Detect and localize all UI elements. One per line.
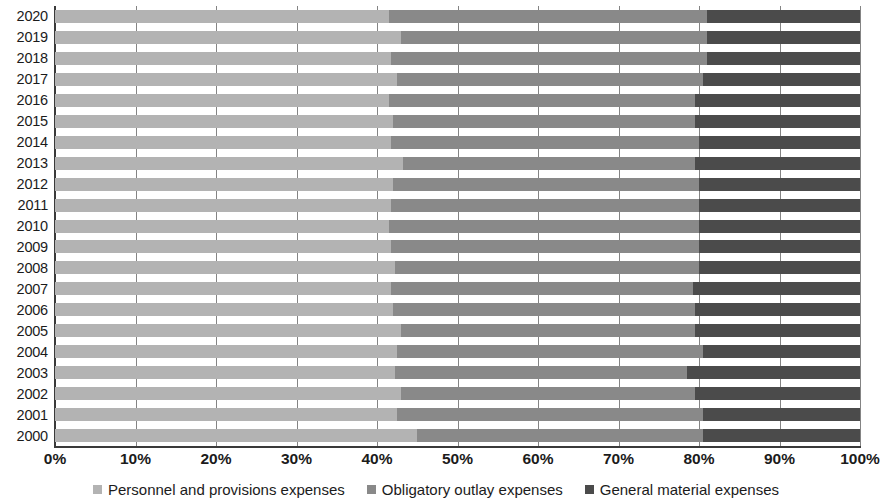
bar-segment-material-2016 bbox=[695, 94, 860, 107]
x-tick-label-60pct: 60% bbox=[522, 450, 553, 468]
bar-segment-material-2012 bbox=[699, 178, 860, 191]
y-tick-label-2012: 2012 bbox=[0, 177, 48, 191]
x-axis-line bbox=[54, 446, 861, 448]
bar-row-2015 bbox=[55, 115, 860, 128]
x-tick-label-10pct: 10% bbox=[120, 450, 151, 468]
bar-row-2020 bbox=[55, 10, 860, 23]
bar-segment-obligatory-2011 bbox=[391, 199, 699, 212]
bar-row-2000 bbox=[55, 429, 860, 442]
plot-area bbox=[55, 6, 860, 446]
legend-label-material: General material expenses bbox=[600, 481, 779, 498]
y-tick-label-2003: 2003 bbox=[0, 366, 48, 380]
y-tick-label-2005: 2005 bbox=[0, 324, 48, 338]
chart-legend: Personnel and provisions expensesObligat… bbox=[0, 477, 872, 501]
bar-row-2009 bbox=[55, 240, 860, 253]
legend-swatch-personnel-icon bbox=[93, 485, 102, 494]
bar-segment-personnel-2001 bbox=[55, 408, 397, 421]
bar-segment-material-2018 bbox=[707, 52, 860, 65]
bar-segment-material-2006 bbox=[695, 303, 860, 316]
bar-segment-obligatory-2014 bbox=[391, 136, 699, 149]
bar-row-2003 bbox=[55, 366, 860, 379]
bar-row-2011 bbox=[55, 199, 860, 212]
legend-item-obligatory[interactable]: Obligatory outlay expenses bbox=[367, 481, 563, 498]
bar-row-2018 bbox=[55, 52, 860, 65]
bar-segment-obligatory-2012 bbox=[393, 178, 699, 191]
bar-segment-material-2015 bbox=[695, 115, 860, 128]
legend-swatch-material-icon bbox=[585, 485, 594, 494]
y-tick-label-2015: 2015 bbox=[0, 114, 48, 128]
x-axis-labels: 0%10%20%30%40%50%60%70%80%90%100% bbox=[0, 450, 872, 474]
bar-row-2017 bbox=[55, 73, 860, 86]
bar-segment-material-2003 bbox=[687, 366, 860, 379]
bar-segment-personnel-2016 bbox=[55, 94, 389, 107]
y-tick-label-2000: 2000 bbox=[0, 429, 48, 443]
bar-segment-obligatory-2017 bbox=[397, 73, 703, 86]
bar-row-2002 bbox=[55, 387, 860, 400]
y-tick-label-2014: 2014 bbox=[0, 135, 48, 149]
bar-segment-obligatory-2007 bbox=[391, 282, 693, 295]
bar-segment-personnel-2009 bbox=[55, 240, 391, 253]
y-tick-label-2019: 2019 bbox=[0, 30, 48, 44]
bar-segment-material-2005 bbox=[695, 324, 860, 337]
x-tick-label-0pct: 0% bbox=[44, 450, 66, 468]
bar-segment-personnel-2006 bbox=[55, 303, 393, 316]
bar-segment-personnel-2003 bbox=[55, 366, 395, 379]
bar-segment-material-2000 bbox=[703, 429, 860, 442]
bar-segment-obligatory-2016 bbox=[389, 94, 695, 107]
bar-segment-material-2002 bbox=[695, 387, 860, 400]
bar-row-2006 bbox=[55, 303, 860, 316]
bar-segment-personnel-2002 bbox=[55, 387, 401, 400]
bar-segment-obligatory-2006 bbox=[393, 303, 695, 316]
bar-segment-material-2013 bbox=[695, 157, 860, 170]
y-tick-label-2010: 2010 bbox=[0, 219, 48, 233]
bar-segment-material-2017 bbox=[703, 73, 860, 86]
y-tick-label-2004: 2004 bbox=[0, 345, 48, 359]
bar-row-2010 bbox=[55, 220, 860, 233]
bar-segment-obligatory-2009 bbox=[391, 240, 699, 253]
bar-row-2019 bbox=[55, 31, 860, 44]
legend-item-material[interactable]: General material expenses bbox=[585, 481, 779, 498]
bar-segment-personnel-2000 bbox=[55, 429, 417, 442]
bar-segment-personnel-2019 bbox=[55, 31, 401, 44]
x-tick-label-80pct: 80% bbox=[683, 450, 714, 468]
legend-item-personnel[interactable]: Personnel and provisions expenses bbox=[93, 481, 345, 498]
bar-row-2001 bbox=[55, 408, 860, 421]
bar-segment-personnel-2005 bbox=[55, 324, 401, 337]
y-tick-label-2016: 2016 bbox=[0, 93, 48, 107]
bar-segment-personnel-2004 bbox=[55, 345, 397, 358]
bar-segment-personnel-2015 bbox=[55, 115, 393, 128]
y-tick-label-2001: 2001 bbox=[0, 408, 48, 422]
x-tick-label-40pct: 40% bbox=[361, 450, 392, 468]
bar-segment-material-2007 bbox=[693, 282, 860, 295]
bar-row-2012 bbox=[55, 178, 860, 191]
y-tick-label-2018: 2018 bbox=[0, 51, 48, 65]
bar-segment-personnel-2007 bbox=[55, 282, 391, 295]
bar-row-2007 bbox=[55, 282, 860, 295]
bar-segment-material-2009 bbox=[699, 240, 860, 253]
bar-segment-personnel-2011 bbox=[55, 199, 391, 212]
bar-segment-material-2019 bbox=[707, 31, 860, 44]
legend-label-personnel: Personnel and provisions expenses bbox=[108, 481, 345, 498]
bar-segment-material-2010 bbox=[699, 220, 860, 233]
bar-segment-personnel-2010 bbox=[55, 220, 389, 233]
legend-swatch-obligatory-icon bbox=[367, 485, 376, 494]
bar-segment-material-2001 bbox=[703, 408, 860, 421]
y-tick-label-2009: 2009 bbox=[0, 240, 48, 254]
bar-segment-obligatory-2019 bbox=[401, 31, 707, 44]
bar-segment-obligatory-2001 bbox=[397, 408, 703, 421]
bar-segment-obligatory-2004 bbox=[397, 345, 703, 358]
bar-segment-material-2008 bbox=[699, 261, 860, 274]
x-tick-label-50pct: 50% bbox=[442, 450, 473, 468]
bar-segment-material-2011 bbox=[699, 199, 860, 212]
bar-segment-personnel-2014 bbox=[55, 136, 391, 149]
y-tick-label-2020: 2020 bbox=[0, 9, 48, 23]
bar-segment-obligatory-2020 bbox=[389, 10, 707, 23]
bar-row-2008 bbox=[55, 261, 860, 274]
y-tick-label-2006: 2006 bbox=[0, 303, 48, 317]
bar-segment-obligatory-2018 bbox=[391, 52, 707, 65]
y-tick-label-2008: 2008 bbox=[0, 261, 48, 275]
x-tick-label-20pct: 20% bbox=[200, 450, 231, 468]
bar-segment-obligatory-2002 bbox=[401, 387, 695, 400]
y-tick-label-2007: 2007 bbox=[0, 282, 48, 296]
